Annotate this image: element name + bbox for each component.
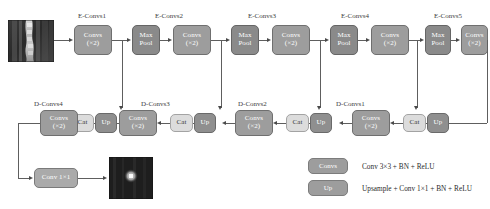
block-max-pool-1[interactable]: Max Pool <box>132 25 160 55</box>
connector-cat1-to-dconvs1 <box>394 123 403 124</box>
connector-cat2-to-dconvs2 <box>277 123 286 124</box>
block-d-convs3[interactable]: Convs (×2) <box>119 110 157 136</box>
block-d-convs3-line2: (×2) <box>132 123 145 131</box>
arrow-dconvs1-to-up2 <box>339 121 343 125</box>
bottleneck-down <box>487 40 488 123</box>
block-e-convs3[interactable]: Convs (×2) <box>272 25 310 55</box>
block-max-pool-3[interactable]: Max Pool <box>330 25 358 55</box>
arrow-pool2-to-econvs3 <box>267 38 271 42</box>
caption-econvs2: E-Convs2 <box>155 12 183 20</box>
block-conv-1x1[interactable]: Conv 1×1 <box>34 168 78 188</box>
arrow-cat3-to-dconvs3 <box>157 121 161 125</box>
arrow-econvs3-to-pool3 <box>325 38 329 42</box>
caption-dconvs3: D-Convs3 <box>141 100 170 108</box>
block-e-convs1-line2: (×2) <box>87 40 100 48</box>
block-up-4[interactable]: Up <box>95 113 117 133</box>
arrow-pool1-to-econvs2 <box>168 38 172 42</box>
legend-text-up: Upsample + Conv 1×1 + BN + ReLU <box>362 184 472 193</box>
arrow-cat1-to-dconvs1 <box>390 121 394 125</box>
caption-dconvs2: D-Convs2 <box>238 100 267 108</box>
connector-conv1x1-to-output <box>78 178 104 179</box>
block-max-pool-4-line2: Pool <box>431 40 444 48</box>
block-conv-1x1-label: Conv 1×1 <box>42 174 71 182</box>
block-d-convs1-line2: (×2) <box>365 123 378 131</box>
block-e-convs3-line2: (×2) <box>285 40 298 48</box>
block-e-convs2-line2: (×2) <box>186 40 199 48</box>
block-up-1[interactable]: Up <box>427 113 449 133</box>
head-path-down <box>18 123 19 178</box>
arrow-input-to-econvs1 <box>69 38 73 42</box>
block-cat-3[interactable]: Cat <box>170 114 193 132</box>
block-up-2-label: Up <box>317 119 326 127</box>
block-max-pool-4[interactable]: Max Pool <box>425 25 451 55</box>
output-segmentation-map <box>109 157 153 199</box>
caption-econvs4: E-Convs4 <box>341 12 369 20</box>
legend-row-conv: Convs Conv 3×3 + BN + ReLU <box>308 158 435 174</box>
block-max-pool-3-line2: Pool <box>337 40 350 48</box>
architecture-diagram: E-Convs1 E-Convs2 E-Convs3 E-Convs4 E-Co… <box>0 0 490 209</box>
block-e-convs5[interactable]: Convs (×2) <box>461 25 488 55</box>
bottleneck-left <box>449 123 487 124</box>
legend-text-conv: Conv 3×3 + BN + ReLU <box>362 162 435 171</box>
block-up-3-label: Up <box>201 119 210 127</box>
skip-connection-4 <box>417 40 418 108</box>
block-cat-1[interactable]: Cat <box>403 114 426 132</box>
skip-connection-3 <box>320 40 321 108</box>
connector-econvs3-to-pool3 <box>310 40 326 41</box>
block-up-4-label: Up <box>102 119 111 127</box>
arrow-dconvs2-to-up3 <box>222 121 226 125</box>
caption-econvs3: E-Convs3 <box>248 12 276 20</box>
legend-swatch-conv: Convs <box>308 158 348 174</box>
arrow-conv1x1-to-output <box>103 176 107 180</box>
skip-connection-2 <box>221 40 222 108</box>
block-e-convs4[interactable]: Convs (×2) <box>371 25 409 55</box>
arrow-econvs1-to-pool1 <box>127 38 131 42</box>
block-max-pool-1-line2: Pool <box>139 40 152 48</box>
block-cat-2[interactable]: Cat <box>286 114 309 132</box>
connector-dconvs2-to-up3 <box>226 123 235 124</box>
connector-input-to-econvs1 <box>54 40 70 41</box>
block-cat-1-label: Cat <box>409 119 419 127</box>
connector-dconvs1-to-up2 <box>343 123 352 124</box>
arrow-econvs2-to-pool2 <box>226 38 230 42</box>
arrow-econvs4-to-pool4 <box>420 38 424 42</box>
block-e-convs5-line2: (×2) <box>468 40 481 48</box>
input-mri-slice <box>8 20 54 62</box>
arrow-pool3-to-econvs4 <box>366 38 370 42</box>
block-up-3[interactable]: Up <box>194 113 216 133</box>
legend-swatch-up: Up <box>308 180 348 196</box>
skip1-stub <box>112 40 122 41</box>
connector-econvs2-to-pool2 <box>211 40 227 41</box>
skip-connection-1 <box>122 40 123 108</box>
arrow-skip-4 <box>414 106 418 110</box>
caption-econvs1: E-Convs1 <box>78 12 106 20</box>
block-d-convs4[interactable]: Convs (×2) <box>40 110 78 136</box>
block-cat-3-label: Cat <box>176 119 186 127</box>
block-d-convs2-line2: (×2) <box>248 123 261 131</box>
arrow-skip-2 <box>218 106 222 110</box>
block-max-pool-2[interactable]: Max Pool <box>231 25 259 55</box>
caption-dconvs1: D-Convs1 <box>336 100 365 108</box>
block-cat-4-label: Cat <box>77 119 87 127</box>
arrow-skip-3 <box>317 106 321 110</box>
arrow-cat2-to-dconvs2 <box>273 121 277 125</box>
block-e-convs4-line2: (×2) <box>384 40 397 48</box>
legend-row-up: Up Upsample + Conv 1×1 + BN + ReLU <box>308 180 472 196</box>
arrow-pool4-to-econvs5 <box>456 38 460 42</box>
block-max-pool-2-line2: Pool <box>238 40 251 48</box>
block-e-convs2[interactable]: Convs (×2) <box>173 25 211 55</box>
head-path-left <box>18 123 40 124</box>
block-e-convs1[interactable]: Convs (×2) <box>74 25 112 55</box>
block-up-2[interactable]: Up <box>310 113 332 133</box>
block-d-convs2[interactable]: Convs (×2) <box>235 110 273 136</box>
arrow-to-conv1x1 <box>29 176 33 180</box>
block-cat-2-label: Cat <box>292 119 302 127</box>
block-d-convs1[interactable]: Convs (×2) <box>352 110 390 136</box>
connector-cat3-to-dconvs3 <box>161 123 170 124</box>
caption-econvs5: E-Convs5 <box>434 12 462 20</box>
block-up-1-label: Up <box>434 119 443 127</box>
block-d-convs4-line2: (×2) <box>53 123 66 131</box>
caption-dconvs4: D-Convs4 <box>34 100 63 108</box>
